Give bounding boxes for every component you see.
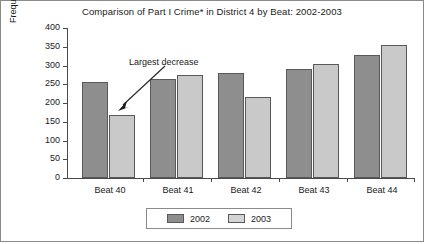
bar-group-beat-42 [213, 28, 279, 178]
bar-group-beat-44 [349, 28, 415, 178]
x-tick-mark [347, 178, 348, 182]
chart-figure: Comparison of Part I Crime* in District … [0, 0, 424, 242]
x-tick-label-beat-40: Beat 40 [75, 185, 145, 195]
legend-label: 2003 [251, 214, 271, 224]
legend-swatch-icon [167, 214, 184, 223]
y-axis-title: Frequency of Part I Crime [8, 0, 20, 23]
x-tick-label-beat-42: Beat 42 [211, 185, 281, 195]
bar-group-beat-43 [281, 28, 347, 178]
legend-item-2002[interactable]: 2002 [167, 214, 210, 224]
x-tick-mark [414, 178, 415, 182]
x-tick-label-beat-41: Beat 41 [143, 185, 213, 195]
y-tick-label: 100 [45, 135, 60, 145]
bar-2002-beat-44[interactable] [354, 55, 380, 178]
x-tick-label-beat-43: Beat 43 [279, 185, 349, 195]
chart-legend: 2002 2003 [146, 208, 292, 229]
x-tick-mark [143, 178, 144, 182]
y-tick-label: 300 [45, 60, 60, 70]
bar-2002-beat-40[interactable] [82, 82, 108, 178]
bar-2003-beat-42[interactable] [245, 97, 271, 178]
y-tick-label: 200 [45, 97, 60, 107]
bar-2003-beat-40[interactable] [109, 115, 135, 178]
annotation-arrow-icon [109, 63, 169, 115]
y-tick-label: 0 [55, 172, 60, 182]
legend-label: 2002 [190, 214, 210, 224]
y-tick-label: 350 [45, 41, 60, 51]
bar-2002-beat-43[interactable] [286, 69, 312, 178]
x-tick-mark [211, 178, 212, 182]
y-tick-label: 50 [50, 153, 60, 163]
x-tick-mark [279, 178, 280, 182]
legend-swatch-icon [228, 214, 245, 223]
y-tick-label: 400 [45, 22, 60, 32]
bar-2003-beat-41[interactable] [177, 75, 203, 178]
bar-2003-beat-44[interactable] [381, 45, 407, 178]
bar-2002-beat-42[interactable] [218, 73, 244, 178]
legend-item-2003[interactable]: 2003 [228, 214, 271, 224]
y-tick-label: 250 [45, 78, 60, 88]
x-tick-label-beat-44: Beat 44 [347, 185, 417, 195]
chart-title: Comparison of Part I Crime* in District … [1, 6, 423, 17]
y-tick-label: 150 [45, 116, 60, 126]
bar-2003-beat-43[interactable] [313, 64, 339, 178]
